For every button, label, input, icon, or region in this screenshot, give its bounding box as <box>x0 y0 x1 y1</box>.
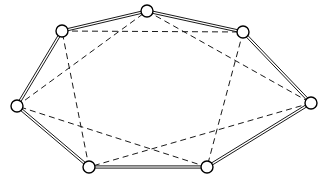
outer-edge-n1-n2-b <box>244 31 312 102</box>
outer-edge-n5-n6-b <box>16 30 61 105</box>
chord-edge-n6-n1 <box>62 31 243 32</box>
left-node[interactable] <box>11 100 23 112</box>
outer-edge-n2-n3-b <box>208 104 312 168</box>
graph-canvas <box>0 0 325 187</box>
top-left-node[interactable] <box>56 25 68 37</box>
outer-edge-n6-n0-a <box>62 12 147 32</box>
outer-edge-n1-n2-a <box>242 33 310 104</box>
outer-edge-n0-n1-a <box>147 12 243 33</box>
outer-edge-n0-n1-b <box>147 10 243 31</box>
right-node[interactable] <box>305 97 317 109</box>
chord-edge-n0-n2 <box>147 11 311 103</box>
bottom-left-node[interactable] <box>83 161 95 173</box>
bottom-right-node[interactable] <box>201 161 213 173</box>
outer-edge-n5-n6-a <box>18 32 63 107</box>
chord-edge-n2-n4 <box>89 103 311 167</box>
top-center-node[interactable] <box>141 5 153 17</box>
top-right-node[interactable] <box>237 26 249 38</box>
outer-edge-n4-n5-b <box>16 107 88 168</box>
node-layer <box>11 5 317 173</box>
chord-edge-n3-n5 <box>17 106 207 167</box>
graph-figure <box>0 0 325 187</box>
